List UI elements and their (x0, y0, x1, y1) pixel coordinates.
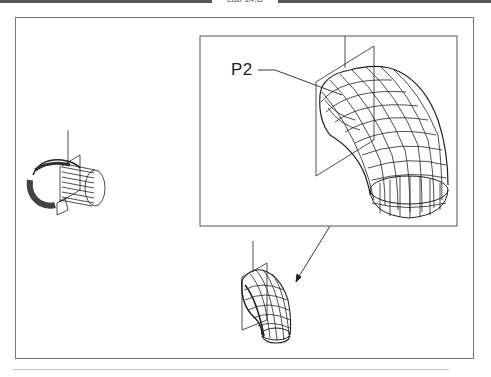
footer-rule (12, 369, 449, 370)
bottom-model-wireframe (242, 241, 291, 343)
pointer-arrow (296, 226, 330, 282)
p2-callout-label: P2 (231, 60, 253, 80)
detail-elbow-wireframe (316, 36, 448, 218)
left-model-wireframe (30, 130, 105, 215)
drawing-canvas (0, 0, 491, 377)
